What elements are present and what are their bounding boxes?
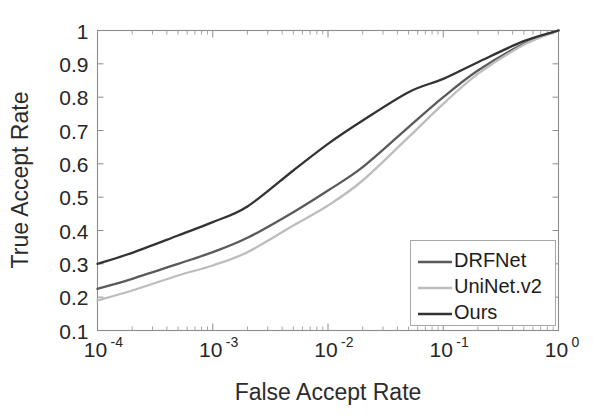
x-tick-label: 10-2: [314, 334, 353, 361]
x-tick-label: 10-4: [84, 334, 123, 361]
x-tick-label: 10-1: [430, 334, 469, 361]
y-tick-label: 0.2: [59, 286, 88, 309]
y-tick-label: 0.7: [59, 120, 88, 143]
y-tick-label: 0.6: [59, 153, 88, 176]
y-tick-label: 0.4: [59, 220, 89, 243]
x-tick-label-exponent: -2: [341, 334, 354, 350]
legend-label-ours: Ours: [454, 301, 497, 323]
y-axis-title: True Accept Rate: [7, 92, 33, 269]
x-tick-label-exponent: -3: [226, 334, 239, 350]
legend-label-drfnet: DRFNet: [454, 249, 527, 271]
y-tick-label: 0.8: [59, 86, 88, 109]
legend: DRFNetUniNet.v2Ours: [411, 241, 556, 326]
y-tick-label: 1: [77, 20, 89, 43]
x-tick-label-mantissa: 10: [314, 338, 337, 361]
legend-label-uninet-v2: UniNet.v2: [454, 275, 542, 297]
x-tick-label-mantissa: 10: [545, 338, 568, 361]
x-axis-title: False Accept Rate: [235, 379, 422, 405]
x-tick-label-mantissa: 10: [84, 338, 107, 361]
x-tick-label-mantissa: 10: [199, 338, 222, 361]
x-tick-label-exponent: 0: [572, 334, 580, 350]
y-tick-label: 0.5: [59, 186, 88, 209]
roc-chart-figure: 0.10.20.30.40.50.60.70.80.91 10-410-310-…: [0, 0, 599, 418]
chart-canvas: 0.10.20.30.40.50.60.70.80.91 10-410-310-…: [0, 0, 599, 418]
x-tick-label-exponent: -1: [456, 334, 469, 350]
x-tick-label: 10-3: [199, 334, 238, 361]
x-tick-label-mantissa: 10: [430, 338, 453, 361]
y-tick-label: 0.3: [59, 253, 88, 276]
x-tick-label: 100: [545, 334, 580, 361]
x-tick-label-exponent: -4: [111, 334, 124, 350]
y-tick-label: 0.9: [59, 53, 88, 76]
